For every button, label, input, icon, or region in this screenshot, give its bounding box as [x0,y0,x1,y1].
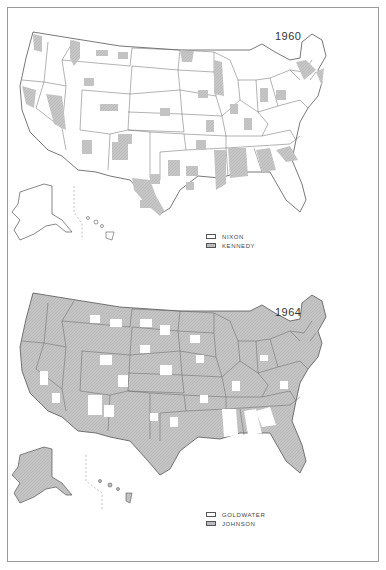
legend-label: KENNEDY [222,243,255,249]
map-panel-1960: 1960 NIXON KENNEDY [0,0,386,285]
year-label-1960: 1960 [275,30,301,42]
legend-label: NIXON [222,234,244,240]
legend-swatch-white [206,512,216,517]
us-county-map-1960 [0,0,386,285]
alaska-outline [12,447,72,503]
alaska-divider [74,186,82,240]
legend-swatch-gray [206,521,216,526]
legend-swatch-white [206,234,216,239]
year-label-1964: 1964 [275,306,301,318]
legend-1964: GOLDWATER JOHNSON [206,510,265,528]
legend-item-goldwater: GOLDWATER [206,510,265,519]
alaska-outline [12,184,72,240]
legend-swatch-gray [206,243,216,248]
legend-item-kennedy: KENNEDY [206,241,255,250]
hawaii-islands [99,480,133,504]
legend-label: GOLDWATER [222,512,265,518]
hawaii-islands [87,217,115,241]
contiguous-us-outline [20,32,326,214]
legend-item-johnson: JOHNSON [206,519,265,528]
map-panel-1964: 1964 GOLDWATER JOHNSON [0,285,386,570]
legend-label: JOHNSON [222,521,256,527]
legend-item-nixon: NIXON [206,232,255,241]
us-county-map-1964 [0,285,386,570]
alaska-divider [86,455,102,511]
legend-1960: NIXON KENNEDY [206,232,255,250]
